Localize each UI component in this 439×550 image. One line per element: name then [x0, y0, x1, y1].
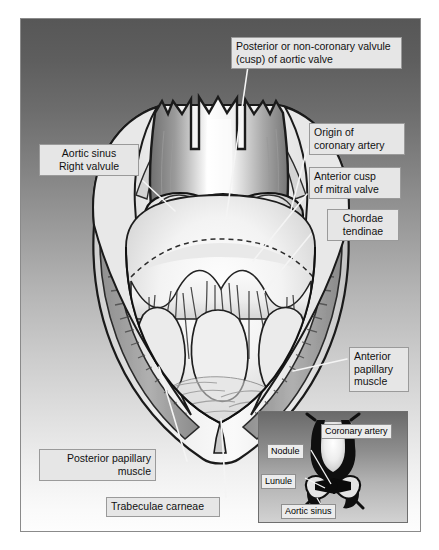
label-origin-coronary-artery: Origin of coronary artery	[309, 123, 405, 155]
inset-label-nodule: Nodule	[267, 444, 304, 459]
inset-label-aortic-sinus: Aortic sinus	[281, 504, 336, 519]
label-trabeculae-carneae: Trabeculae carneae	[106, 497, 220, 517]
inset-label-lunule: Lunule	[261, 474, 296, 489]
aortic-cusp-detail-inset: Coronary artery Nodule Lunule Aortic sin…	[258, 411, 408, 523]
label-anterior-papillary-muscle: Anterior papillary muscle	[349, 347, 409, 392]
figure-page: Posterior or non-coronary valvule (cusp)…	[0, 0, 439, 550]
label-posterior-papillary-muscle: Posterior papillary muscle	[39, 449, 156, 481]
label-aortic-sinus-right-valvule: Aortic sinus Right valvule	[39, 144, 139, 176]
inset-label-coronary-artery: Coronary artery	[321, 424, 392, 439]
anatomical-figure-frame: Posterior or non-coronary valvule (cusp)…	[20, 18, 421, 532]
label-chordae-tendinae: Chordae tendinae	[327, 209, 399, 241]
label-anterior-cusp-mitral: Anterior cusp of mitral valve	[309, 167, 401, 199]
label-posterior-cusp: Posterior or non-coronary valvule (cusp)…	[231, 37, 402, 69]
